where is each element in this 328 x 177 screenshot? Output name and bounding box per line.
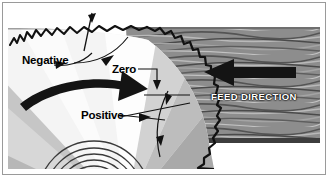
illustration-stage: Negative Zero Positive FEED DIRECTION xyxy=(8,7,320,169)
label-positive: Positive xyxy=(81,110,124,122)
label-zero: Zero xyxy=(112,64,136,76)
label-negative: Negative xyxy=(22,55,68,67)
label-feed-direction: FEED DIRECTION xyxy=(211,92,297,102)
figure-canvas: Negative Zero Positive FEED DIRECTION xyxy=(0,0,328,177)
saw-blade-diagram xyxy=(8,7,320,169)
